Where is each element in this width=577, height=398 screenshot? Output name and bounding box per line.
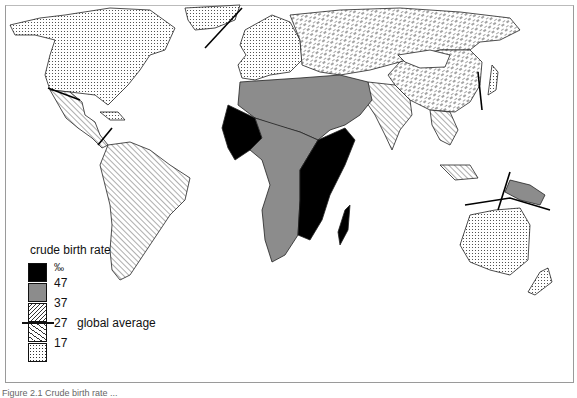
region-new-zealand bbox=[528, 268, 552, 295]
region-se-asia bbox=[430, 110, 458, 145]
figure-caption: Figure 2.1 Crude birth rate ... bbox=[2, 388, 118, 398]
legend-tick-17: 17 bbox=[54, 336, 67, 350]
legend-swatch-lowest bbox=[28, 343, 47, 362]
global-average-marker bbox=[22, 322, 54, 324]
region-south-america bbox=[100, 142, 190, 280]
legend-tick-47: 47 bbox=[54, 276, 67, 290]
global-average-label: global average bbox=[77, 316, 156, 330]
region-north-america bbox=[10, 8, 175, 105]
region-caribbean bbox=[100, 112, 125, 120]
region-greenland bbox=[185, 5, 240, 30]
legend-tick-37: 37 bbox=[54, 296, 67, 310]
region-madagascar bbox=[338, 205, 350, 245]
legend-title: crude birth rate bbox=[30, 243, 111, 257]
region-new-guinea bbox=[505, 180, 545, 205]
legend-swatch-high bbox=[28, 263, 47, 282]
legend-tick-27: 27 bbox=[54, 316, 67, 330]
legend-swatch-mid bbox=[28, 303, 47, 322]
legend-unit: ‰ bbox=[54, 262, 64, 273]
legend-swatch-mid-high bbox=[28, 283, 47, 302]
legend-swatch-low bbox=[28, 323, 47, 342]
region-indonesia bbox=[440, 165, 478, 180]
region-japan bbox=[488, 65, 498, 95]
region-europe bbox=[238, 15, 302, 80]
region-australia bbox=[460, 208, 530, 275]
